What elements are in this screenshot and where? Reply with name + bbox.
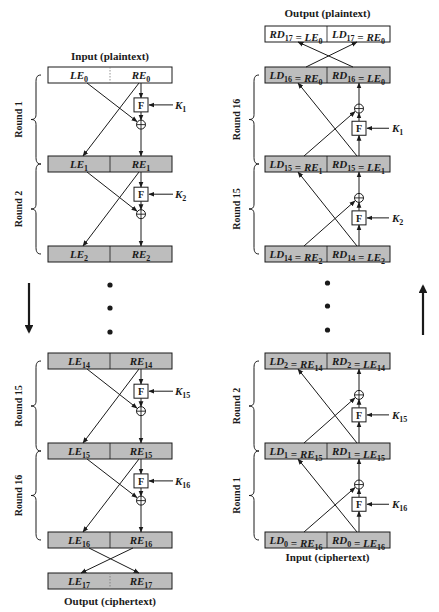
round-stage: FK2Round 2 — [13, 164, 186, 254]
encryption-column: Input (plaintext)LE0RE0LE1RE1LE2RE2LE14R… — [13, 50, 190, 608]
round-stage: FK15Round 2 — [231, 361, 407, 451]
round-label: Round 2 — [13, 191, 24, 227]
swap-arrow — [89, 548, 139, 573]
xor-icon — [137, 120, 146, 129]
input-plaintext-label: Input (plaintext) — [71, 50, 149, 63]
connector-arrow — [304, 201, 355, 246]
register-row: LD15 = RE1RD15 = LE1 — [265, 156, 390, 176]
feistel-diagram: Input (plaintext)LE0RE0LE1RE1LE2RE2LE14R… — [0, 0, 439, 612]
round-function-label: F — [356, 410, 362, 421]
connector-arrow — [298, 83, 357, 156]
connector-arrow — [298, 172, 357, 246]
round-brace — [31, 361, 41, 451]
connector-arrow — [87, 172, 137, 211]
register-box — [48, 67, 172, 83]
direction-indicators — [29, 283, 423, 335]
connector-arrow — [304, 398, 355, 443]
output-ciphertext-label: Output (ciphertext) — [64, 595, 156, 608]
register-row: LE16RE16 — [48, 532, 172, 549]
round-brace — [249, 164, 259, 254]
right-half-label: RD16 = LE0 — [331, 69, 385, 87]
register-row: LD0 = RE16RD0 = LE16 — [265, 532, 390, 552]
left-half-label: LD2 = RE14 — [268, 355, 322, 373]
round-key-label: K16 — [391, 498, 407, 513]
register-row: LE14RE14 — [48, 353, 172, 370]
register-row: LE0RE0 — [48, 67, 172, 84]
round-brace — [249, 75, 259, 164]
round-key-label: K2 — [391, 212, 403, 227]
round-label: Round 15 — [13, 385, 24, 426]
xor-icon — [137, 496, 146, 505]
round-label: Round 1 — [13, 101, 24, 137]
connector-arrow — [87, 459, 137, 498]
left-half-label: RD17 = LE0 — [268, 28, 322, 46]
right-half-label: RD15 = LE1 — [331, 158, 385, 176]
connector-arrow — [298, 459, 357, 532]
left-half-label: LD0 = RE16 — [268, 534, 322, 552]
round-function-label: F — [356, 213, 362, 224]
right-half-label: RD14 = LE2 — [331, 248, 385, 266]
round-brace — [31, 164, 41, 254]
register-row: LE1RE1 — [48, 156, 172, 173]
connector-arrow — [83, 459, 139, 532]
round-key-label: K1 — [174, 99, 186, 114]
register-row: LE17RE17 — [48, 573, 172, 590]
xor-icon — [355, 480, 364, 489]
round-stage: FK16Round 1 — [231, 451, 407, 540]
register-row: RD17 = LE0LD17 = RE0 — [265, 26, 390, 46]
output-plaintext-label: Output (plaintext) — [285, 7, 371, 20]
register-row: LD1 = RE15RD1 = LE15 — [265, 443, 390, 463]
ellipsis-dot-icon — [325, 280, 330, 285]
right-half-label: RD2 = LE14 — [331, 355, 385, 373]
register-row: LD16 = RE0RD16 = LE0 — [265, 67, 390, 87]
register-row: LE2RE2 — [48, 246, 172, 263]
register-box — [48, 573, 172, 589]
xor-icon — [355, 390, 364, 399]
round-brace — [31, 451, 41, 540]
swap-arrow — [298, 42, 353, 67]
ellipsis-dot-icon — [325, 327, 330, 332]
register-row: LE15RE15 — [48, 443, 172, 460]
ellipsis-dot-icon — [325, 303, 330, 308]
register-row: LD2 = RE14RD2 = LE14 — [265, 353, 390, 373]
xor-icon — [355, 104, 364, 113]
round-label: Round 16 — [231, 99, 242, 140]
right-half-label: LD17 = RE0 — [331, 28, 385, 46]
right-half-label: RD1 = LE15 — [331, 445, 385, 463]
register-row: LD14 = RE2RD14 = LE2 — [265, 246, 390, 266]
connector-arrow — [83, 172, 139, 246]
input-ciphertext-label: Input (ciphertext) — [285, 551, 369, 564]
round-stage: FK1Round 16 — [231, 75, 403, 164]
left-half-label: LD1 = RE15 — [268, 445, 322, 463]
round-key-label: K16 — [174, 475, 190, 490]
round-key-label: K2 — [174, 188, 186, 203]
round-function-label: F — [356, 123, 362, 134]
right-half-label: RD0 = LE16 — [331, 534, 385, 552]
round-brace — [249, 451, 259, 540]
swap-arrow — [306, 42, 357, 67]
round-key-label: K1 — [391, 122, 403, 137]
xor-icon — [137, 210, 146, 219]
round-stage: FK15Round 15 — [13, 361, 190, 451]
round-stage: FK16Round 16 — [13, 451, 190, 540]
xor-icon — [137, 407, 146, 416]
round-brace — [31, 75, 41, 164]
swap-arrow — [81, 548, 133, 573]
left-half-label: LD14 = RE2 — [268, 248, 322, 266]
round-label: Round 16 — [13, 475, 24, 516]
left-half-label: LD15 = RE1 — [268, 158, 322, 176]
connector-arrow — [304, 488, 355, 532]
ellipsis-dot-icon — [107, 305, 112, 310]
connector-arrow — [304, 112, 355, 156]
connector-arrow — [87, 83, 137, 122]
round-label: Round 15 — [231, 188, 242, 229]
decryption-column: Output (plaintext)RD17 = LE0LD17 = RE0LD… — [231, 7, 407, 564]
connector-arrow — [83, 83, 139, 156]
connector-arrow — [87, 369, 137, 408]
left-half-label: LD16 = RE0 — [268, 69, 322, 87]
round-function-label: F — [138, 386, 144, 397]
xor-icon — [355, 193, 364, 202]
round-brace — [249, 361, 259, 451]
ellipsis-dot-icon — [107, 282, 112, 287]
round-label: Round 1 — [231, 477, 242, 513]
